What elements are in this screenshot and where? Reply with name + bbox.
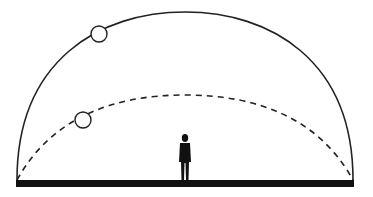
sun-low-icon <box>75 112 91 128</box>
person-silhouette-icon <box>179 134 191 180</box>
sun-high-icon <box>91 26 107 42</box>
ground-bar <box>16 180 354 187</box>
sun-path-diagram <box>0 0 373 197</box>
